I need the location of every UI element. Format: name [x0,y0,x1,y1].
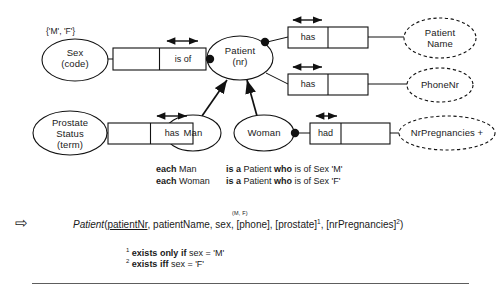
cell-is-of: is of [160,54,206,64]
footnote-1-marker: 1 [126,247,129,253]
verbal-2-subject: Woman [179,176,210,186]
bottom-divider [32,283,469,284]
footnote-2-rest: sex = 'F' [171,259,204,269]
cell-has-phone: has [288,79,328,89]
subtype-arrows [202,80,257,116]
man-to-patient-arrow [202,80,227,116]
label-prostate-status: Prostate Status (term) [33,117,107,150]
relational-schema-line: Patient(patientNr, patientName, sex, [ph… [73,218,403,230]
schema-close-paren: ) [400,219,403,230]
label-prostate-word1: Prostate [33,117,107,128]
verbal-1-who: who [274,164,292,174]
schema-relation-name: Patient [73,219,104,230]
cell-had: had [310,128,341,138]
schema-sex-value-mark: (M, F) [232,210,248,216]
verbal-1-subject: Man [179,164,197,174]
verbal-2-isa: is a [226,176,241,186]
verbalization-line-1-rest: is a Patient who is of Sex 'M' [226,163,343,175]
footnote-2-marker: 2 [126,258,129,264]
label-phonenr-value: PhoneNr [407,80,473,90]
verbal-2-tail: is of Sex 'F' [295,176,341,186]
cell-has-prostate: has [151,128,193,138]
verbal-1-isa: is a [226,164,241,174]
verbal-1-tail: is of Sex 'M' [295,164,343,174]
label-patient-name-value: Patient Name [407,28,473,49]
schema-primary-key: patientNr [107,219,147,230]
footnote-2-keyword: exists iff [132,259,169,269]
verbalization-line-2-rest: is a Patient who is of Sex 'F' [226,175,341,187]
value-constraint-sex: {'M', 'F'} [46,26,75,36]
label-woman: Woman [231,128,297,138]
woman-to-patient-arrow [247,80,257,116]
verbal-2-who: who [274,176,292,186]
verbalization-line-2: each Woman [156,175,210,187]
cell-has-name: has [288,32,328,42]
label-prostate-word2: Status [33,128,107,139]
label-nrpregnancies-value: NrPregnancies + [399,128,495,138]
dot-patient-has-name [261,38,269,46]
label-prostate-ref: (term) [33,139,107,150]
schema-attributes-2: , [nrPregnancies] [321,219,397,230]
label-patient-ref: (nr) [207,57,273,68]
footnote-2: 2 exists iff sex = 'F' [126,256,204,270]
verbal-1-each: each [156,164,177,174]
label-patientname-word2: Name [407,39,473,50]
verbal-2-mid: Patient [244,176,272,186]
verbalization-line-1: each Man [156,163,197,175]
schema-attributes: , patientName, sex, [phone], [prostate] [148,219,318,230]
verbal-1-mid: Patient [244,164,272,174]
result-arrow-icon: ⇨ [15,214,28,232]
label-patient: Patient (nr) [207,46,273,67]
verbal-2-each: each [156,176,177,186]
line-patient-to-hasphone [266,73,288,84]
label-sex: Sex (code) [42,48,108,69]
label-sex-ref: (code) [42,59,108,70]
